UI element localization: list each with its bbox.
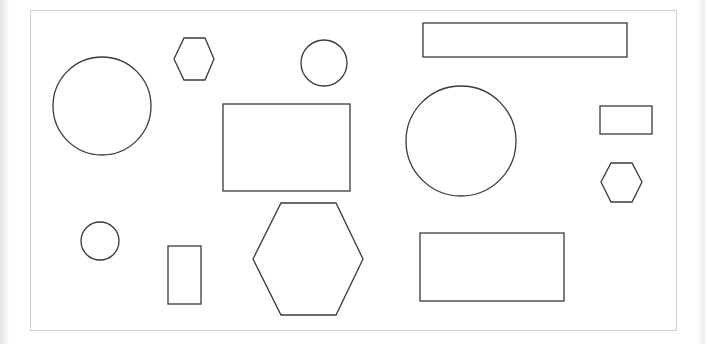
hexagon-small-top xyxy=(174,38,214,80)
shapes-canvas xyxy=(0,0,707,344)
hexagon-large-bottom xyxy=(253,203,363,315)
rect-wide-top xyxy=(423,23,627,57)
circle-small-top xyxy=(301,40,347,86)
rectangles-group xyxy=(168,23,652,304)
circle-small-bottom-left xyxy=(81,222,119,260)
rect-small-right xyxy=(600,106,652,134)
diagram-page xyxy=(0,0,707,344)
diagram-frame xyxy=(31,11,677,331)
hexagon-small-right xyxy=(601,163,642,202)
rect-tall-bottom xyxy=(168,246,201,304)
hexagons-group xyxy=(174,38,642,315)
circle-large-left xyxy=(53,57,151,155)
circle-large-center xyxy=(406,86,516,196)
circles-group xyxy=(53,40,516,260)
rect-bottom-right xyxy=(420,233,564,301)
rect-center xyxy=(223,104,350,191)
